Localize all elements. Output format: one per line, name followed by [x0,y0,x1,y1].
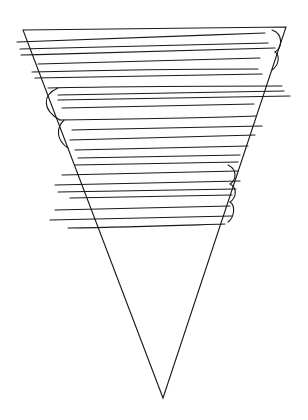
triangle-outline [23,27,286,398]
hatching [17,33,290,228]
inverted-triangle-sketch [0,0,308,420]
sketch-canvas [0,0,308,420]
